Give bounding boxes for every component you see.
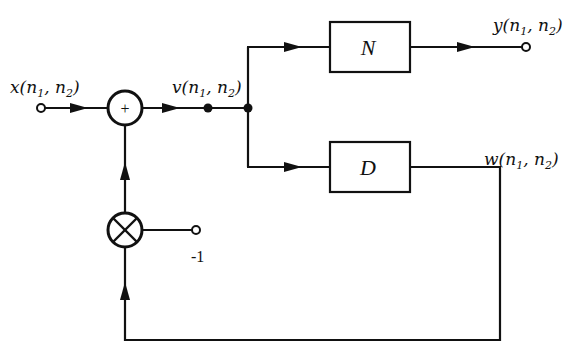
plus-sign: + [120, 100, 129, 117]
output-arrow-icon [457, 42, 475, 52]
v-arrow-icon [162, 103, 180, 113]
block-diagram: + N D -1 x(n1, n2) v(n1, n2) y(n1, n2) [0, 0, 573, 360]
output-terminal [522, 43, 530, 51]
adder-feedback-arrow-icon [120, 162, 130, 180]
output-signal-label: y(n1, n2) [492, 15, 563, 38]
d-input-arrow-icon [284, 162, 302, 172]
denominator-label: D [359, 155, 376, 180]
multiplier-node [108, 213, 142, 247]
input-arrow-icon [70, 103, 88, 113]
intermediate-signal-label: v(n1, n2) [172, 77, 242, 100]
v-node-dot [204, 104, 213, 113]
input-terminal [37, 104, 45, 112]
gain-terminal [192, 226, 200, 234]
input-signal-label: x(n1, n2) [10, 77, 80, 100]
feedback-arrow-icon [120, 282, 130, 300]
feedback-signal-label: w(n1, n2) [484, 149, 559, 172]
adder-node: + [108, 91, 142, 125]
numerator-block: N [330, 22, 410, 72]
gain-label: -1 [191, 248, 204, 265]
denominator-block: D [330, 142, 410, 192]
feedback-wire [125, 167, 500, 340]
n-input-arrow-icon [284, 42, 302, 52]
numerator-label: N [360, 35, 377, 60]
